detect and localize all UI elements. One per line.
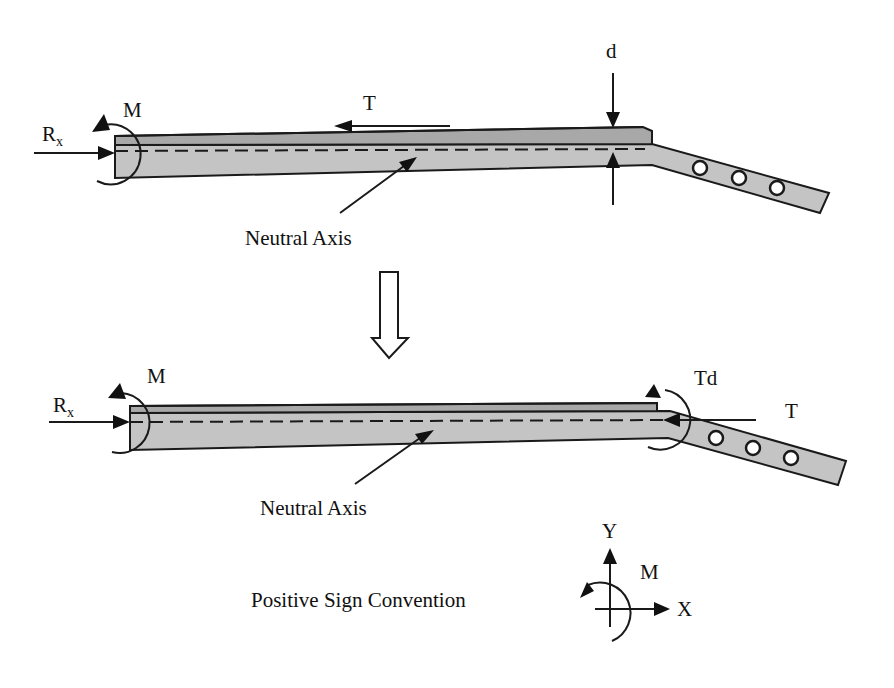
top-moment-label: M [123, 98, 142, 122]
bottom-diagram: Rx M Td T Neutral Axis [49, 364, 846, 520]
offset-down-arrow-icon [606, 73, 620, 128]
top-rx-label: Rx [42, 122, 63, 149]
sign-convention: Positive Sign Convention Y X M [251, 519, 692, 641]
x-axis-label: X [677, 597, 692, 621]
y-axis-label: Y [602, 519, 617, 543]
x-axis-arrow-icon [595, 602, 670, 616]
bottom-rx-label: Rx [53, 393, 74, 420]
top-diagram: Rx M T d Neutral Axis [34, 39, 829, 250]
top-tension-label: T [363, 91, 376, 115]
sign-moment-label: M [640, 560, 659, 584]
bottom-neutral-axis-label: Neutral Axis [260, 496, 367, 520]
top-hole-3 [770, 181, 784, 195]
bottom-tension-label: T [785, 399, 798, 423]
bottom-hole-3 [784, 451, 798, 465]
bottom-moment-label: M [147, 364, 166, 388]
top-beam-plate [115, 127, 652, 145]
sign-convention-caption: Positive Sign Convention [251, 588, 466, 612]
offset-label: d [606, 39, 617, 63]
top-hole-1 [693, 161, 707, 175]
top-beam-body [115, 144, 829, 213]
tension-moment-label: Td [694, 366, 718, 390]
bottom-hole-1 [709, 431, 723, 445]
sign-moment-arrow-icon [580, 582, 630, 641]
top-rx-arrow-icon [34, 146, 115, 160]
bottom-rx-arrow-icon [49, 415, 130, 429]
transition-down-arrow-icon [372, 272, 408, 358]
top-neutral-axis-label: Neutral Axis [245, 226, 352, 250]
bottom-hole-2 [746, 441, 760, 455]
free-body-diagram: Rx M T d Neutral Axis [0, 0, 894, 688]
top-hole-2 [732, 171, 746, 185]
